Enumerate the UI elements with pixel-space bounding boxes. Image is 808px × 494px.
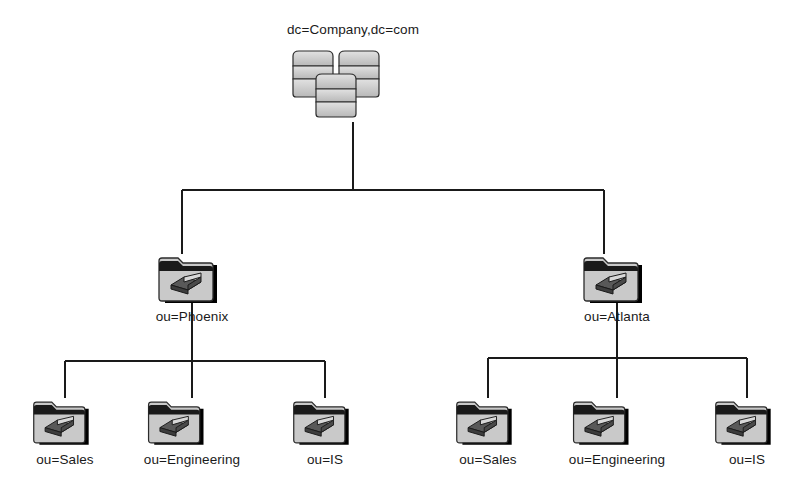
node-leaf-phoenix-engineering[interactable]: ou=Engineering (144, 396, 240, 468)
folder-book-icon (579, 252, 655, 306)
node-leaf-atlanta-sales[interactable]: ou=Sales (452, 396, 524, 468)
leaf-label: ou=IS (289, 452, 361, 468)
node-leaf-atlanta-engineering[interactable]: ou=Engineering (569, 396, 665, 468)
leaf-label: ou=Sales (452, 452, 524, 468)
folder-book-icon (452, 396, 524, 448)
server-cluster-icon (287, 42, 419, 120)
ou-phoenix-label: ou=Phoenix (154, 309, 230, 325)
folder-book-icon (289, 396, 361, 448)
folder-book-icon (144, 396, 240, 448)
node-ou-atlanta[interactable]: ou=Atlanta (579, 252, 655, 325)
folder-book-icon (29, 396, 101, 448)
ldap-tree-diagram: dc=Company,dc=com (0, 0, 808, 494)
ou-atlanta-label: ou=Atlanta (579, 309, 655, 325)
node-ou-phoenix[interactable]: ou=Phoenix (154, 252, 230, 325)
node-leaf-phoenix-sales[interactable]: ou=Sales (29, 396, 101, 468)
node-leaf-atlanta-is[interactable]: ou=IS (711, 396, 783, 468)
leaf-label: ou=Engineering (144, 452, 240, 468)
node-root[interactable]: dc=Company,dc=com (287, 22, 419, 120)
leaf-label: ou=IS (711, 452, 783, 468)
root-label: dc=Company,dc=com (287, 22, 419, 38)
folder-book-icon (711, 396, 783, 448)
folder-book-icon (154, 252, 230, 306)
folder-book-icon (569, 396, 665, 448)
leaf-label: ou=Engineering (569, 452, 665, 468)
leaf-label: ou=Sales (29, 452, 101, 468)
node-leaf-phoenix-is[interactable]: ou=IS (289, 396, 361, 468)
